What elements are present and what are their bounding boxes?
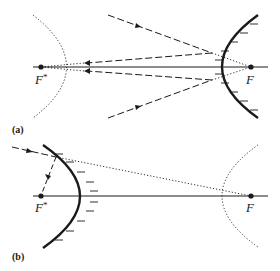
reflected-ray-bottom-a	[87, 71, 212, 80]
panel-label-b: (b)	[12, 251, 24, 263]
focus-f-point-b	[248, 193, 253, 198]
focus-fstar-label-b: F*	[34, 200, 48, 215]
mirror-hatching-b	[55, 154, 98, 240]
arrow-icon	[45, 174, 51, 180]
focus-fstar-point-a	[38, 64, 43, 69]
panel-a: F* F (a)	[12, 15, 268, 136]
focus-f-label-b: F	[245, 200, 255, 215]
arrow-icon	[84, 68, 90, 74]
arrow-icon	[84, 60, 90, 66]
panel-label-a: (a)	[12, 124, 24, 136]
virtual-ray-b	[56, 157, 251, 196]
focus-fstar-label-a: F*	[34, 72, 48, 87]
arrow-icon	[26, 148, 33, 153]
focus-fstar-point-b	[38, 193, 43, 198]
panel-b: F* F (b)	[12, 145, 268, 263]
hyperbolic-mirror-diagram: F* F (a) F*	[0, 0, 280, 271]
focus-f-point-a	[248, 64, 253, 69]
reflected-ray-top-a	[87, 53, 212, 63]
reflected-ray-b	[42, 157, 56, 193]
incoming-ray-bottom-a	[108, 80, 212, 118]
incoming-ray-top-a	[108, 15, 212, 53]
focus-f-label-a: F	[245, 72, 255, 87]
